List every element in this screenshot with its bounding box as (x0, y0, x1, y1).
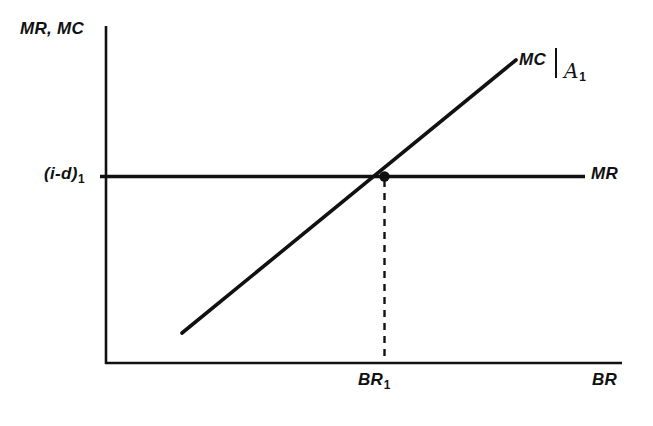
x-tick-label: BR1 (358, 370, 390, 390)
conditional-bar-icon (555, 48, 557, 78)
x-tick-label-text: BR (358, 370, 383, 389)
mc-curve-line (182, 60, 516, 333)
chart-figure: MR, MC (i-d)1 MCA1 MR BR1 BR (0, 0, 653, 426)
y-value-label-subscript: 1 (78, 172, 85, 186)
script-a-letter: A (564, 59, 579, 83)
equilibrium-point-marker (379, 171, 389, 181)
y-value-label-text: (i-d) (44, 164, 78, 183)
x-tick-label-subscript: 1 (384, 378, 391, 392)
script-a-symbol: A1 (564, 59, 586, 83)
script-a-subscript: 1 (579, 70, 586, 84)
y-axis-label: MR, MC (20, 19, 84, 39)
x-axis-label: BR (592, 370, 617, 390)
mr-curve-label: MR (591, 164, 618, 184)
y-value-label: (i-d)1 (44, 164, 85, 184)
mc-curve-label: MCA1 (519, 50, 586, 78)
mc-curve-label-text: MC (519, 50, 546, 70)
